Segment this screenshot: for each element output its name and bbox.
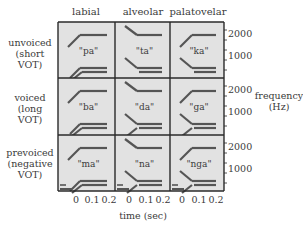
cell-labial-1: "pa" bbox=[58, 22, 115, 80]
x-tick-0.2: 0.2 bbox=[101, 194, 116, 205]
syllable-label: "nga" bbox=[186, 159, 211, 169]
y-tick-1000: 1000 bbox=[228, 50, 252, 61]
syllable-label: "na" bbox=[135, 159, 154, 169]
syllable-label: "ta" bbox=[136, 46, 153, 56]
y-tick-1000: 1000 bbox=[228, 163, 252, 174]
y-axis-label: (Hz) bbox=[269, 101, 290, 112]
x-tick-0.2: 0.2 bbox=[208, 194, 223, 205]
x-tick-0.1: 0.1 bbox=[191, 194, 206, 205]
syllable-label: "da" bbox=[135, 102, 154, 112]
column-header-palatovelar: palatovelar bbox=[169, 6, 226, 17]
cell-labial-3: "ma" bbox=[58, 135, 115, 193]
syllable-label: "ma" bbox=[77, 159, 99, 169]
frequency-axis: 2000 1000 2000 1000 2000 1000 frequency … bbox=[228, 28, 303, 174]
row-label-line: prevoiced bbox=[6, 147, 53, 158]
y-tick-1000: 1000 bbox=[228, 106, 252, 117]
row-label-line: voiced bbox=[13, 92, 45, 103]
time-axis: 0 0.1 0.2 0 0.1 0.2 0 0.1 0.2 time (sec) bbox=[73, 194, 224, 221]
row-label-line: unvoiced bbox=[8, 37, 51, 48]
syllable-label: "ka" bbox=[189, 46, 208, 56]
x-axis-label: time (sec) bbox=[119, 210, 167, 221]
cell-alveolar-3: "na" bbox=[115, 135, 170, 193]
row-label-line: VOT) bbox=[17, 59, 43, 70]
row-label-line: (negative bbox=[7, 158, 52, 169]
cell-alveolar-2: "da" bbox=[115, 78, 170, 136]
y-tick-2000: 2000 bbox=[228, 84, 252, 95]
syllable-label: "ga" bbox=[189, 102, 208, 112]
cell-palatovelar-3: "nga" bbox=[170, 135, 224, 193]
column-headers: labial alveolar palatovelar bbox=[72, 6, 227, 17]
cell-alveolar-1: "ta" bbox=[115, 22, 170, 78]
syllable-label: "pa" bbox=[79, 46, 98, 56]
row-label-line: (long bbox=[18, 103, 43, 114]
x-tick-0: 0 bbox=[179, 194, 185, 205]
cell-palatovelar-1: "ka" bbox=[170, 22, 224, 78]
syllable-label: "ba" bbox=[79, 102, 98, 112]
x-tick-0.1: 0.1 bbox=[138, 194, 153, 205]
column-header-labial: labial bbox=[72, 6, 100, 17]
y-tick-2000: 2000 bbox=[228, 141, 252, 152]
row-label-line: VOT) bbox=[17, 169, 43, 180]
y-axis-label: frequency bbox=[255, 90, 303, 101]
row-label-line: (short bbox=[16, 48, 45, 59]
x-tick-0.1: 0.1 bbox=[84, 194, 99, 205]
x-tick-0.2: 0.2 bbox=[155, 194, 170, 205]
column-header-alveolar: alveolar bbox=[123, 6, 164, 17]
row-labels: unvoiced (short VOT) voiced (long VOT) p… bbox=[6, 37, 53, 180]
y-tick-2000: 2000 bbox=[228, 28, 252, 39]
speech-formant-diagram: labial alveolar palatovelar unvoiced (sh… bbox=[0, 0, 303, 226]
row-label-line: VOT) bbox=[17, 114, 43, 125]
x-tick-0: 0 bbox=[126, 194, 132, 205]
cell-labial-2: "ba" bbox=[58, 78, 115, 136]
cell-grid: "pa""ta""ka""ba""da""ga""ma""na""nga" bbox=[58, 22, 224, 193]
cell-palatovelar-2: "ga" bbox=[170, 78, 224, 136]
x-tick-0: 0 bbox=[73, 194, 79, 205]
